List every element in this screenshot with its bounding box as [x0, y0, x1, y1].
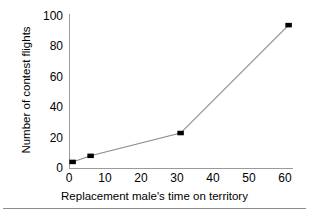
data-point: [69, 160, 76, 165]
bottom-divider: [3, 208, 306, 209]
series-line: [73, 25, 289, 162]
x-tick-label: 50: [234, 172, 264, 184]
x-tick-label: 30: [162, 172, 192, 184]
series-markers: [69, 23, 292, 164]
x-tick-label: 20: [126, 172, 156, 184]
x-tick-label: 10: [90, 172, 120, 184]
data-point: [285, 23, 292, 28]
chart-figure: Number of contest flights 100 80 60 40 2…: [0, 0, 309, 219]
data-point: [177, 131, 184, 136]
data-point: [87, 154, 94, 159]
x-tick-label: 0: [54, 172, 84, 184]
x-tick-label: 60: [270, 172, 300, 184]
x-tick-label: 40: [198, 172, 228, 184]
x-axis-tick-labels: 0 10 20 30 40 50 60: [0, 172, 309, 188]
x-axis-title: Replacement male's time on territory: [0, 190, 309, 203]
